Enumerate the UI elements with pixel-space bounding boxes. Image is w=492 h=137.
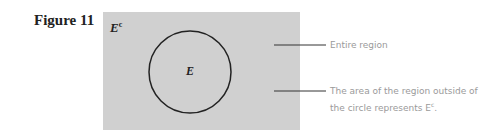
entire-region — [103, 12, 300, 130]
annotation-entire-region: Entire region — [330, 38, 388, 52]
venn-diagram — [0, 0, 492, 137]
circle-label: E — [186, 64, 194, 79]
annotation-complement: The area of the region outside of the ci… — [330, 84, 478, 115]
complement-label: Ec — [110, 20, 122, 36]
